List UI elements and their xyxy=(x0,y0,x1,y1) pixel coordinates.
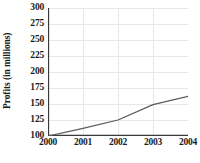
y-tick-label: 225 xyxy=(16,51,44,61)
line-chart-figure: Profits (in millions) 300275250225200175… xyxy=(0,0,200,163)
y-tick-label: 175 xyxy=(16,83,44,93)
y-tick-label: 275 xyxy=(16,19,44,29)
y-axis-title-container: Profits (in millions) xyxy=(0,0,16,142)
x-tick-label: 2002 xyxy=(98,137,138,148)
y-tick-label: 300 xyxy=(16,3,44,13)
y-tick-label: 250 xyxy=(16,35,44,45)
figure-caption xyxy=(2,153,198,163)
x-tick-label: 2004 xyxy=(168,137,200,148)
y-tick-label: 125 xyxy=(16,115,44,125)
y-axis-tick-labels: 300275250225200175150125100 xyxy=(16,8,46,136)
x-axis-tick-labels: 20002001200220032004 xyxy=(48,137,188,151)
x-tick-label: 2000 xyxy=(28,137,68,148)
x-tick-label: 2001 xyxy=(63,137,103,148)
plot-area xyxy=(48,8,188,136)
y-tick-label: 150 xyxy=(16,99,44,109)
plot-svg xyxy=(48,8,188,136)
y-axis-title: Profits (in millions) xyxy=(3,33,13,109)
y-tick-label: 200 xyxy=(16,67,44,77)
x-tick-label: 2003 xyxy=(133,137,173,148)
